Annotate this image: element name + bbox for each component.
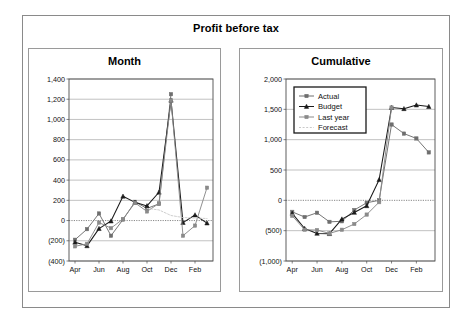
series-line-last-year bbox=[75, 100, 207, 246]
legend-label-forecast: Forecast bbox=[318, 123, 348, 132]
series-marker-last-year bbox=[315, 228, 318, 231]
x-axis-tick-label: Dec bbox=[385, 265, 398, 274]
series-marker-last-year bbox=[97, 221, 100, 224]
series-marker-last-year bbox=[157, 202, 160, 205]
series-marker-actual bbox=[390, 123, 393, 126]
y-axis-tick-label: 0 bbox=[61, 216, 65, 225]
x-axis-tick-label: Oct bbox=[361, 265, 372, 274]
series-marker-last-year bbox=[133, 201, 136, 204]
series-marker-last-year bbox=[205, 186, 208, 189]
y-axis-tick-label: 800 bbox=[53, 135, 65, 144]
plot-area-month: 1,4001,2001,0008006004002000(200)(400)Ap… bbox=[29, 49, 220, 291]
legend-marker-actual bbox=[305, 94, 308, 97]
legend-marker-last-year bbox=[305, 115, 308, 118]
legend-label-actual: Actual bbox=[318, 92, 339, 101]
series-marker-budget bbox=[193, 213, 197, 217]
series-marker-last-year bbox=[340, 228, 343, 231]
y-axis-tick-label: 1,500 bbox=[264, 105, 282, 114]
series-marker-last-year bbox=[303, 228, 306, 231]
series-marker-last-year bbox=[85, 242, 88, 245]
y-axis-tick-label: 1,400 bbox=[47, 75, 65, 84]
x-axis-tick-label: Aug bbox=[335, 265, 348, 274]
x-axis-tick-label: Jun bbox=[311, 265, 323, 274]
chart-panel-cumulative: Cumulative 2,0001,5001,0005000(500)(1,00… bbox=[239, 48, 443, 292]
series-line-actual bbox=[292, 125, 429, 222]
y-axis-tick-label: 2,000 bbox=[264, 75, 282, 84]
series-marker-budget bbox=[340, 217, 344, 221]
x-axis-tick-label: Dec bbox=[165, 265, 178, 274]
chart-panel-month: Month 1,4001,2001,0008006004002000(200)(… bbox=[28, 48, 221, 292]
y-axis-tick-label: (500) bbox=[265, 226, 282, 235]
chart-svg-month: 1,4001,2001,0008006004002000(200)(400)Ap… bbox=[29, 49, 222, 293]
x-axis-tick-label: Apr bbox=[69, 265, 81, 274]
screenshot-root: Profit before tax Month 1,4001,2001,0008… bbox=[0, 0, 473, 330]
series-marker-last-year bbox=[181, 234, 184, 237]
y-axis-tick-label: (1,000) bbox=[259, 257, 282, 266]
y-axis-tick-label: (200) bbox=[48, 236, 65, 245]
x-axis-tick-label: Apr bbox=[287, 265, 299, 274]
series-marker-last-year bbox=[328, 232, 331, 235]
series-marker-last-year bbox=[73, 245, 76, 248]
page-title: Profit before tax bbox=[22, 22, 450, 34]
y-axis-tick-label: (400) bbox=[48, 257, 65, 266]
series-marker-last-year bbox=[353, 222, 356, 225]
series-marker-last-year bbox=[390, 106, 393, 109]
x-axis-tick-label: Aug bbox=[117, 265, 130, 274]
x-axis-tick-label: Oct bbox=[141, 265, 152, 274]
series-marker-actual bbox=[328, 220, 331, 223]
y-axis-tick-label: 200 bbox=[53, 196, 65, 205]
series-marker-actual bbox=[109, 234, 112, 237]
series-marker-last-year bbox=[193, 224, 196, 227]
x-axis-tick-label: Feb bbox=[189, 265, 201, 274]
series-marker-actual bbox=[85, 227, 88, 230]
series-marker-actual bbox=[427, 151, 430, 154]
y-axis-tick-label: 1,000 bbox=[264, 135, 282, 144]
plot-area-cumulative: 2,0001,5001,0005000(500)(1,000)AprJunAug… bbox=[240, 49, 442, 291]
y-axis-tick-label: 500 bbox=[270, 166, 282, 175]
plot-border bbox=[69, 79, 213, 261]
series-marker-last-year bbox=[291, 214, 294, 217]
legend-label-last-year: Last year bbox=[318, 113, 350, 122]
series-marker-last-year bbox=[121, 217, 124, 220]
chart-svg-cumulative: 2,0001,5001,0005000(500)(1,000)AprJunAug… bbox=[240, 49, 444, 293]
series-marker-budget bbox=[97, 226, 101, 230]
x-axis-tick-label: Feb bbox=[410, 265, 422, 274]
legend-label-budget: Budget bbox=[318, 102, 343, 111]
series-marker-last-year bbox=[169, 99, 172, 102]
series-marker-budget bbox=[121, 194, 125, 198]
series-marker-actual bbox=[169, 92, 172, 95]
y-axis-tick-label: 400 bbox=[53, 176, 65, 185]
series-line-budget bbox=[75, 100, 207, 246]
series-marker-actual bbox=[402, 132, 405, 135]
series-marker-last-year bbox=[365, 213, 368, 216]
series-marker-actual bbox=[315, 211, 318, 214]
y-axis-tick-label: 600 bbox=[53, 155, 65, 164]
series-marker-budget bbox=[377, 177, 381, 181]
series-marker-actual bbox=[97, 212, 100, 215]
series-marker-last-year bbox=[377, 200, 380, 203]
y-axis-tick-label: 0 bbox=[278, 196, 282, 205]
y-axis-tick-label: 1,200 bbox=[47, 95, 65, 104]
series-marker-last-year bbox=[145, 210, 148, 213]
series-marker-actual bbox=[303, 215, 306, 218]
series-marker-actual bbox=[415, 137, 418, 140]
series-marker-last-year bbox=[109, 226, 112, 229]
y-axis-tick-label: 1,000 bbox=[47, 115, 65, 124]
x-axis-tick-label: Jun bbox=[93, 265, 105, 274]
